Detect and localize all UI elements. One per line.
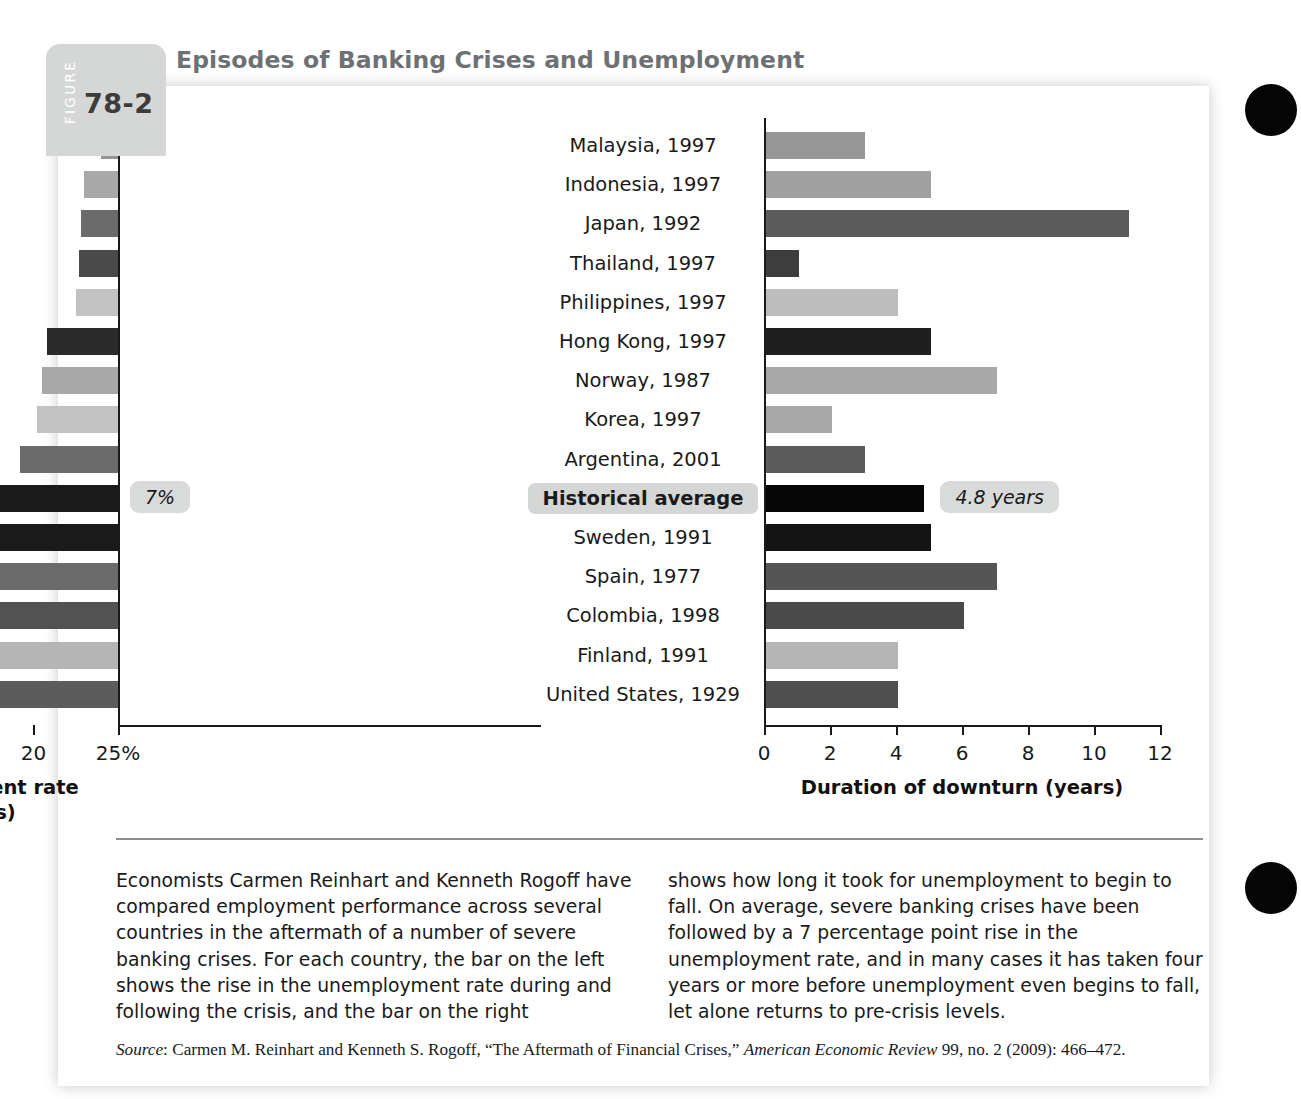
tick-duration-5 <box>1094 725 1096 735</box>
category-label-8: Argentina, 2001 <box>528 446 758 473</box>
body-paragraph-left: Economists Carmen Reinhart and Kenneth R… <box>116 868 636 1025</box>
annotation-unemployment: 7% <box>130 481 190 513</box>
source-volume: 99, no. 2 (2009): 466–472. <box>937 1040 1125 1059</box>
binding-dot-icon <box>1245 862 1297 914</box>
bar-unemployment-1 <box>84 171 118 198</box>
bar-duration-11 <box>766 563 997 590</box>
category-label-14: United States, 1929 <box>528 681 758 708</box>
figure-page: FIGURE 78-2 Episodes of Banking Crises a… <box>0 0 1301 1099</box>
figure-chart: 0510152025%Increase in unemployment rate… <box>58 110 1209 820</box>
category-label-5: Hong Kong, 1997 <box>528 328 758 355</box>
figure-tab: FIGURE 78-2 <box>46 44 166 156</box>
bar-duration-3 <box>766 250 799 277</box>
divider <box>116 838 1203 840</box>
axis-title-duration: Duration of downturn (years) <box>732 775 1192 800</box>
left-chart-x-axis <box>118 725 541 727</box>
bar-unemployment-5 <box>47 328 118 355</box>
binding-dot-icon <box>1245 84 1297 136</box>
category-label-12: Colombia, 1998 <box>528 602 758 629</box>
tick-unemployment-5 <box>118 725 120 735</box>
source-journal: American Economic Review <box>744 1040 938 1059</box>
bar-duration-4 <box>766 289 898 316</box>
axis-title-line2-unemployment: (percentage points) <box>0 800 137 825</box>
category-label-9: Historical average <box>528 483 758 514</box>
bar-duration-8 <box>766 446 865 473</box>
category-label-4: Philippines, 1997 <box>528 289 758 316</box>
bar-unemployment-11 <box>0 563 118 590</box>
category-label-2: Japan, 1992 <box>528 210 758 237</box>
bar-unemployment-7 <box>37 406 118 433</box>
category-label-7: Korea, 1997 <box>528 406 758 433</box>
figure-number: 78-2 <box>84 88 154 119</box>
bar-duration-2 <box>766 210 1129 237</box>
source-label: Source <box>116 1040 163 1059</box>
category-label-13: Finland, 1991 <box>528 642 758 669</box>
tick-label-duration-6: 12 <box>1120 741 1200 765</box>
category-label-10: Sweden, 1991 <box>528 524 758 551</box>
bar-unemployment-14 <box>0 681 118 708</box>
left-chart-y-axis <box>118 118 120 725</box>
category-label-0: Malaysia, 1997 <box>528 132 758 159</box>
tick-duration-6 <box>1160 725 1162 735</box>
bar-unemployment-10 <box>0 524 118 551</box>
bar-duration-7 <box>766 406 832 433</box>
source-citation: Source: Carmen M. Reinhart and Kenneth S… <box>116 1038 1176 1061</box>
bar-unemployment-13 <box>0 642 118 669</box>
bar-duration-14 <box>766 681 898 708</box>
bar-duration-5 <box>766 328 931 355</box>
tick-duration-4 <box>1028 725 1030 735</box>
bar-unemployment-4 <box>76 289 118 316</box>
axis-title-unemployment: Increase in unemployment rate(percentage… <box>0 775 137 825</box>
tick-unemployment-4 <box>33 725 35 735</box>
category-label-6: Norway, 1987 <box>528 367 758 394</box>
bar-duration-13 <box>766 642 898 669</box>
bar-duration-12 <box>766 602 964 629</box>
bar-unemployment-8 <box>20 446 118 473</box>
tick-label-unemployment-5: 25% <box>78 741 158 765</box>
tick-label-unemployment-4: 20 <box>0 741 73 765</box>
bar-unemployment-3 <box>79 250 118 277</box>
bar-unemployment-12 <box>0 602 118 629</box>
tick-duration-3 <box>962 725 964 735</box>
tick-duration-2 <box>896 725 898 735</box>
category-label-11: Spain, 1977 <box>528 563 758 590</box>
bar-duration-6 <box>766 367 997 394</box>
bar-duration-9 <box>766 485 924 512</box>
bar-unemployment-9 <box>0 485 118 512</box>
source-text: : Carmen M. Reinhart and Kenneth S. Rogo… <box>163 1040 744 1059</box>
bar-unemployment-2 <box>81 210 118 237</box>
annotation-duration: 4.8 years <box>940 481 1059 513</box>
bar-unemployment-6 <box>42 367 118 394</box>
category-label-3: Thailand, 1997 <box>528 250 758 277</box>
figure-tab-word: FIGURE <box>62 46 78 138</box>
tick-duration-1 <box>830 725 832 735</box>
tick-duration-0 <box>764 725 766 735</box>
axis-title-line1-unemployment: Increase in unemployment rate <box>0 775 137 800</box>
bar-duration-10 <box>766 524 931 551</box>
bar-duration-1 <box>766 171 931 198</box>
bar-duration-0 <box>766 132 865 159</box>
category-label-1: Indonesia, 1997 <box>528 171 758 198</box>
body-paragraph-right: shows how long it took for unemployment … <box>668 868 1204 1025</box>
page-title: Episodes of Banking Crises and Unemploym… <box>176 46 804 74</box>
